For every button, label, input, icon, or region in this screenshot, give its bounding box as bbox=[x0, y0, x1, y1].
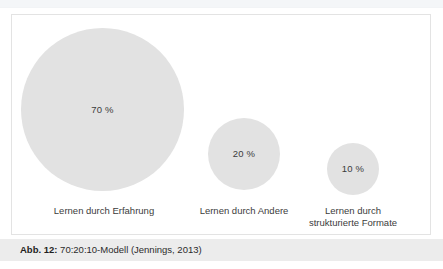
page-top-band bbox=[0, 0, 443, 8]
figure-caption-title: 70:20:10-Modell (Jennings, 2013) bbox=[57, 244, 201, 255]
figure-caption-bar: Abb. 12: 70:20:10-Modell (Jennings, 2013… bbox=[0, 239, 443, 261]
bubble-lernen-durch-strukturierte-formate[interactable]: 10 % bbox=[327, 143, 379, 195]
bubble-category-label-3: Lernen durch strukturierte Formate bbox=[294, 205, 412, 229]
bubble-category-label-2: Lernen durch Andere bbox=[184, 205, 304, 217]
bubble-value-label: 20 % bbox=[233, 149, 255, 159]
bubble-value-label: 70 % bbox=[91, 105, 113, 115]
bubble-category-label-1: Lernen durch Erfahrung bbox=[4, 205, 204, 217]
bubble-lernen-durch-erfahrung[interactable]: 70 % bbox=[21, 28, 184, 191]
figure-frame: 70 % Lernen durch Erfahrung 20 % Lernen … bbox=[11, 14, 431, 235]
document-page: 70 % Lernen durch Erfahrung 20 % Lernen … bbox=[0, 0, 443, 269]
bubble-lernen-durch-andere[interactable]: 20 % bbox=[208, 118, 280, 190]
figure-caption-number: Abb. 12: bbox=[20, 244, 57, 255]
figure-caption: Abb. 12: 70:20:10-Modell (Jennings, 2013… bbox=[0, 245, 202, 255]
bubble-value-label: 10 % bbox=[342, 164, 364, 174]
